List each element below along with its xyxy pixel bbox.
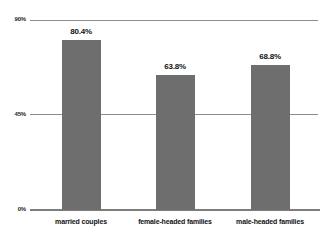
bar-value-female-headed-families: 63.8% bbox=[145, 62, 205, 71]
bar-male-headed-families bbox=[251, 65, 290, 210]
gridline-90 bbox=[30, 20, 318, 21]
y-axis-tick-90: 90% bbox=[0, 16, 26, 23]
y-axis-tick-45: 45% bbox=[0, 111, 26, 118]
category-label-male-headed-families: male-headed families bbox=[210, 218, 330, 225]
plot-area: 90% 45% 0% 80.4% married couples 63.8% f… bbox=[0, 0, 332, 247]
bar-value-male-headed-families: 68.8% bbox=[240, 52, 300, 61]
bar-value-married-couples: 80.4% bbox=[51, 27, 111, 36]
bar-chart: 90% 45% 0% 80.4% married couples 63.8% f… bbox=[0, 0, 332, 247]
bar-married-couples bbox=[62, 40, 101, 210]
y-axis-tick-0: 0% bbox=[0, 206, 26, 213]
bar-female-headed-families bbox=[156, 75, 195, 210]
